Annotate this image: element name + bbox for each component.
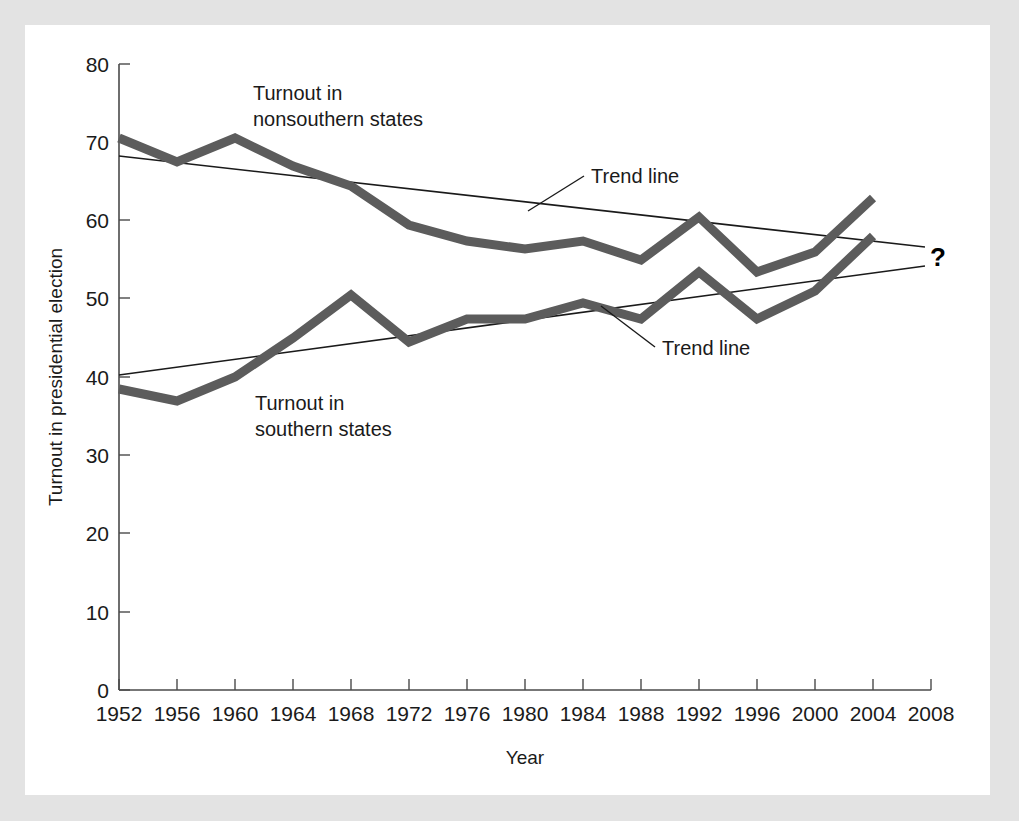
trend-line-label-lower: Trend line (662, 337, 750, 359)
x-tick-label-1980: 1980 (502, 702, 549, 725)
y-tick-label-20: 20 (86, 522, 109, 545)
x-tick-group: 1952 1956 1960 1964 1968 1972 1976 1980 … (96, 679, 955, 725)
y-tick-label-80: 80 (86, 53, 109, 76)
y-tick-label-50: 50 (86, 287, 109, 310)
x-tick-label-1960: 1960 (212, 702, 259, 725)
y-tick-label-40: 40 (86, 366, 109, 389)
x-tick-label-1988: 1988 (618, 702, 665, 725)
x-tick-label-2000: 2000 (792, 702, 839, 725)
x-tick-label-1992: 1992 (676, 702, 723, 725)
x-tick-label-1996: 1996 (734, 702, 781, 725)
y-tick-label-30: 30 (86, 444, 109, 467)
nonsouthern-series-label: Turnout in nonsouthern states (253, 82, 423, 130)
x-tick-label-2008: 2008 (908, 702, 955, 725)
series-line-southern (119, 236, 873, 401)
chart-card: 80 70 60 50 40 30 20 10 0 (25, 25, 990, 795)
nonsouthern-label-line2: nonsouthern states (253, 108, 423, 130)
x-tick-label-2004: 2004 (850, 702, 897, 725)
x-tick-label-1956: 1956 (154, 702, 201, 725)
y-tick-label-60: 60 (86, 209, 109, 232)
x-tick-label-1972: 1972 (386, 702, 433, 725)
y-tick-label-0: 0 (97, 679, 109, 702)
trend-line-nonsouthern (119, 156, 925, 247)
x-tick-label-1952: 1952 (96, 702, 143, 725)
southern-label-line1: Turnout in (255, 392, 344, 414)
trend-line-label-upper: Trend line (591, 165, 679, 187)
turnout-line-chart: 80 70 60 50 40 30 20 10 0 (25, 25, 990, 795)
x-axis-title: Year (506, 747, 545, 768)
x-tick-label-1964: 1964 (270, 702, 317, 725)
y-tick-group: 80 70 60 50 40 30 20 10 0 (86, 53, 130, 702)
nonsouthern-label-line1: Turnout in (253, 82, 342, 104)
southern-series-label: Turnout in southern states (255, 392, 392, 440)
future-uncertainty-marker: ? (930, 242, 946, 272)
y-tick-label-10: 10 (86, 601, 109, 624)
y-axis-title: Turnout in presidential election (45, 248, 66, 506)
x-tick-label-1968: 1968 (328, 702, 375, 725)
y-tick-label-70: 70 (86, 131, 109, 154)
x-tick-label-1976: 1976 (444, 702, 491, 725)
series-line-nonsouthern (119, 138, 873, 272)
southern-label-line2: southern states (255, 418, 392, 440)
x-tick-label-1984: 1984 (560, 702, 607, 725)
page-root: 80 70 60 50 40 30 20 10 0 (0, 0, 1019, 821)
